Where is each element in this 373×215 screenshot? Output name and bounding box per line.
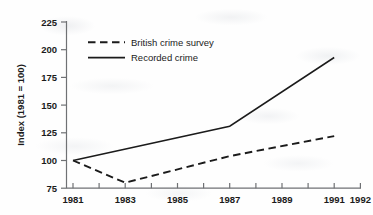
x-axis (67, 183, 362, 188)
legend: British crime survey Recorded crime (88, 37, 214, 63)
y-tick-label-175: 175 (41, 72, 58, 83)
chart-figure: 225 200 175 150 125 100 75 1981 1983 198… (0, 0, 373, 215)
x-tick-label-1983: 1983 (115, 194, 136, 205)
legend-entry-british-crime-survey: British crime survey (88, 37, 214, 48)
y-tick-label-75: 75 (46, 183, 57, 194)
x-tick-label-1987: 1987 (219, 194, 240, 205)
x-tick-label-1989: 1989 (271, 194, 292, 205)
legend-label-british-crime-survey: British crime survey (131, 37, 214, 48)
y-tick-label-200: 200 (41, 44, 57, 55)
y-axis (61, 21, 67, 189)
y-tick-label-100: 100 (41, 155, 57, 166)
x-tick-label-1981: 1981 (62, 194, 84, 205)
series-line-british-crime-survey (73, 136, 334, 183)
x-tick-label-1991: 1991 (324, 194, 346, 205)
y-tick-label-225: 225 (41, 17, 58, 28)
y-tick-label-125: 125 (41, 127, 58, 138)
line-chart: 225 200 175 150 125 100 75 1981 1983 198… (0, 0, 373, 215)
series-line-recorded-crime (73, 58, 334, 161)
y-axis-title: Index (1981 = 100) (15, 64, 26, 146)
y-tick-label-150: 150 (41, 100, 57, 111)
x-tick-label-1992: 1992 (350, 194, 371, 205)
x-tick-label-1985: 1985 (167, 194, 189, 205)
legend-label-recorded-crime: Recorded crime (131, 52, 198, 63)
legend-entry-recorded-crime: Recorded crime (88, 52, 198, 63)
